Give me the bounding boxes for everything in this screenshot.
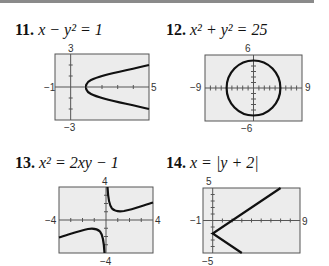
problem-equation: x² + y² = 25 [190, 21, 267, 38]
ymax-label: 3 [68, 43, 74, 54]
plot-12-tick-labels: 6 −9 9 −6 [190, 42, 329, 132]
xmax-label: 4 [155, 215, 161, 226]
problem-equation: x = |y + 2| [190, 154, 259, 171]
xmin-label: −9 [190, 82, 202, 93]
problem-number: 11. [15, 21, 34, 38]
ymax-label: 5 [206, 176, 212, 187]
plot-13-tick-labels: 4 −4 4 −4 [40, 175, 170, 266]
problem-equation: x − y² = 1 [38, 21, 103, 38]
problem-14-heading: 14.x = |y + 2| [166, 154, 259, 172]
ymin-label: −6 [241, 123, 253, 134]
xmin-label: −1 [44, 82, 56, 93]
xmin-label: −1 [190, 215, 202, 226]
plot-14-tick-labels: 5 −1 9 −5 [190, 175, 329, 266]
xmax-label: 5 [151, 82, 157, 93]
ymax-label: 6 [245, 43, 251, 54]
xmin-label: −4 [45, 215, 57, 226]
problem-12-heading: 12.x² + y² = 25 [166, 21, 267, 39]
top-divider-bar [0, 0, 314, 3]
problem-11-heading: 11.x − y² = 1 [15, 21, 103, 39]
ymin-label: −4 [100, 256, 112, 266]
ymax-label: 4 [102, 176, 108, 187]
ymin-label: −5 [202, 256, 214, 266]
xmax-label: 9 [305, 82, 311, 93]
problem-number: 12. [166, 21, 186, 38]
plot-11-tick-labels: 3 −1 5 −3 [40, 42, 170, 132]
problem-number: 13. [15, 154, 35, 171]
xmax-label: 9 [302, 216, 308, 227]
ymin-label: −3 [64, 122, 76, 133]
problem-number: 14. [166, 154, 186, 171]
problem-equation: x² = 2xy − 1 [39, 154, 119, 171]
problem-13-heading: 13.x² = 2xy − 1 [15, 154, 119, 172]
